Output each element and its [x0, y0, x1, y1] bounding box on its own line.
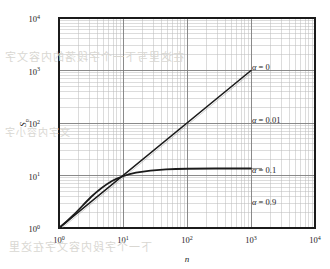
figure-container: 在这里写下一个字段落的内容文字 文字内容小字 下一个字段内容文字在这里 — [0, 0, 330, 269]
annotation-alpha-0p1: α = 0.1 — [252, 165, 276, 175]
annotation-alpha-0p9: α = 0.9 — [252, 197, 276, 207]
annotation-alpha-0: α = 0 — [252, 62, 270, 72]
annotation-alpha-0p01: α = 0.01 — [252, 115, 280, 125]
x-axis-label: n — [185, 254, 190, 264]
chart-svg: 104 103 102 101 100 100 101 102 — [0, 0, 330, 269]
